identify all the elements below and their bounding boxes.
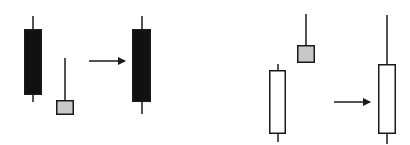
candle-body <box>25 30 42 95</box>
right-panel-candle-1-bullish <box>270 64 286 142</box>
candle-body <box>298 46 315 63</box>
left-panel-result-candle-bearish <box>133 16 151 114</box>
left-panel-candle-1-bearish <box>25 16 42 102</box>
candle-body <box>379 65 396 134</box>
candlestick-diagram <box>0 0 410 145</box>
candle-body <box>133 30 151 102</box>
right-panel-candle-2-small-gray <box>298 14 315 62</box>
right-panel-result-candle-bullish <box>379 15 396 144</box>
candle-body <box>270 71 286 134</box>
candle-body <box>57 101 74 115</box>
left-panel-candle-2-small-gray <box>57 58 74 114</box>
